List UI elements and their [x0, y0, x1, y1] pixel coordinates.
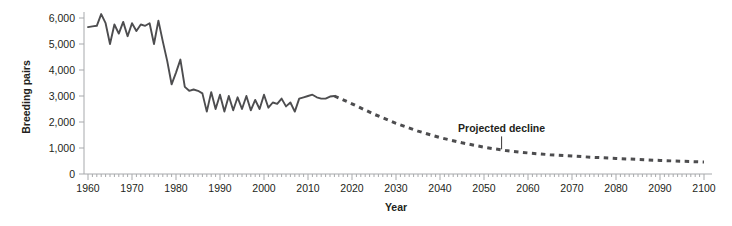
x-axis-tick-labels: 1960197019801990200020102020203020402050…: [76, 182, 716, 194]
x-axis-tick-label: 2000: [252, 182, 276, 194]
y-axis-tick-label: 5,000: [49, 38, 75, 50]
x-axis-tick-label: 1990: [208, 182, 232, 194]
x-axis-tick-label: 2020: [340, 182, 364, 194]
annotation-label: Projected decline: [458, 122, 545, 134]
x-axis-tick-label: 2050: [472, 182, 496, 194]
y-axis-tick-label: 4,000: [49, 64, 75, 76]
y-axis-title: Breeding pairs: [20, 60, 32, 134]
x-axis-tick-label: 1980: [164, 182, 188, 194]
x-axis-tick-label: 2100: [692, 182, 716, 194]
x-axis-tick-label: 1970: [120, 182, 144, 194]
x-axis-tick-label: 2080: [604, 182, 628, 194]
y-axis-tick-label: 0: [69, 168, 75, 180]
y-axis-tick-label: 1,000: [49, 142, 75, 154]
y-axis-tick-label: 3,000: [49, 90, 75, 102]
x-axis-tick-label: 2040: [428, 182, 452, 194]
x-axis-tick-label: 2090: [648, 182, 672, 194]
x-axis-tick-label: 1960: [76, 182, 100, 194]
x-axis-tick-label: 2070: [560, 182, 584, 194]
x-axis-title: Year: [385, 201, 407, 213]
y-axis-tick-label: 6,000: [49, 12, 75, 24]
x-axis-tick-label: 2030: [384, 182, 408, 194]
x-axis-tick-label: 2010: [296, 182, 320, 194]
y-axis-tick-label: 2,000: [49, 116, 75, 128]
breeding-pairs-line-chart: 01,0002,0003,0004,0005,0006,000 19601970…: [0, 0, 732, 226]
x-axis-tick-label: 2060: [516, 182, 540, 194]
chart-container: 01,0002,0003,0004,0005,0006,000 19601970…: [0, 0, 732, 226]
